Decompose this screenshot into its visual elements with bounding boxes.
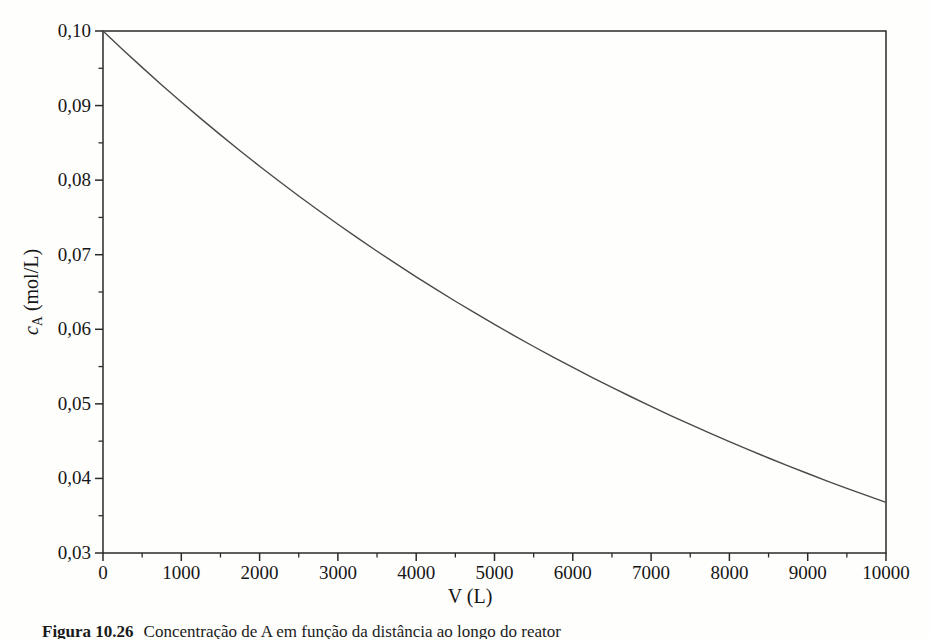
x-tick-label: 3000 — [319, 562, 357, 583]
concentration-curve — [103, 31, 886, 502]
plot-frame — [103, 31, 886, 553]
figure: 0100020003000400050006000700080009000100… — [0, 0, 931, 639]
y-tick-label: 0,03 — [58, 542, 91, 563]
x-tick-label: 0 — [98, 562, 108, 583]
y-axis-label: cA (mol/L) — [20, 249, 45, 335]
x-tick-label: 7000 — [632, 562, 670, 583]
x-tick-label: 10000 — [862, 562, 910, 583]
y-tick-label: 0,04 — [58, 467, 92, 488]
y-tick-label: 0,08 — [58, 169, 91, 190]
y-tick-label: 0,07 — [58, 244, 91, 265]
chart-svg: 0100020003000400050006000700080009000100… — [0, 0, 931, 612]
x-tick-label: 2000 — [241, 562, 279, 583]
figure-caption-text: Concentração de A em função da distância… — [144, 622, 561, 639]
x-tick-label: 4000 — [397, 562, 435, 583]
figure-caption-label: Figura 10.26 — [42, 622, 134, 639]
x-tick-label: 8000 — [710, 562, 748, 583]
x-tick-label: 6000 — [554, 562, 592, 583]
x-tick-label: 9000 — [789, 562, 827, 583]
y-tick-label: 0,10 — [58, 20, 91, 41]
y-tick-label: 0,06 — [58, 318, 91, 339]
figure-caption: Figura 10.26Concentração de A em função … — [42, 621, 902, 639]
x-tick-label: 1000 — [162, 562, 200, 583]
x-axis-label: V (L) — [448, 585, 493, 608]
y-tick-label: 0,05 — [58, 393, 91, 414]
y-tick-label: 0,09 — [58, 95, 91, 116]
x-tick-label: 5000 — [476, 562, 514, 583]
